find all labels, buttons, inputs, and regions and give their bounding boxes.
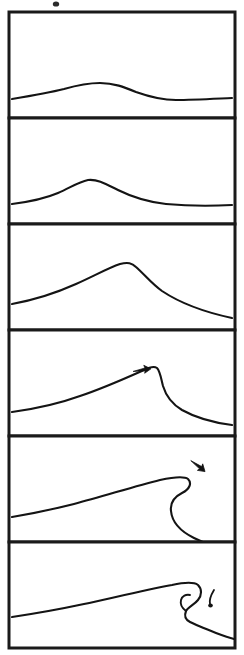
wave-sequence-diagram <box>0 0 244 655</box>
panel-overturning <box>9 436 235 551</box>
panel-swell <box>9 12 235 118</box>
panel-growing <box>9 118 235 224</box>
panel-plunging <box>9 542 235 648</box>
panel-5-frame <box>9 436 235 542</box>
panel-1-frame <box>9 12 235 118</box>
panel-steepening <box>9 224 235 330</box>
panel-3-frame <box>9 224 235 330</box>
scan-speck-artifact <box>53 1 59 6</box>
wave-breaking-figure <box>0 0 244 655</box>
panel-4-frame <box>9 330 235 436</box>
panel-peaking <box>9 330 235 436</box>
droplet-head <box>208 604 213 608</box>
panel-2-frame <box>9 118 235 224</box>
